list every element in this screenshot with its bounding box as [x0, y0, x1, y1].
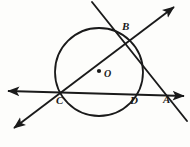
point-label-c: C: [56, 95, 63, 106]
geometry-canvas: [0, 0, 190, 147]
center-point-dot: [97, 69, 101, 73]
line-secant-through-b-and-a: [92, 2, 187, 121]
point-label-b: B: [122, 21, 129, 32]
geometry-figure: B A C D O: [0, 0, 190, 147]
point-label-a: A: [163, 94, 170, 105]
point-label-d: D: [130, 95, 138, 106]
line-diagonal-secant-cb: [14, 7, 174, 128]
line-horizontal-secant: [8, 91, 184, 96]
center-label-o: O: [104, 69, 111, 79]
